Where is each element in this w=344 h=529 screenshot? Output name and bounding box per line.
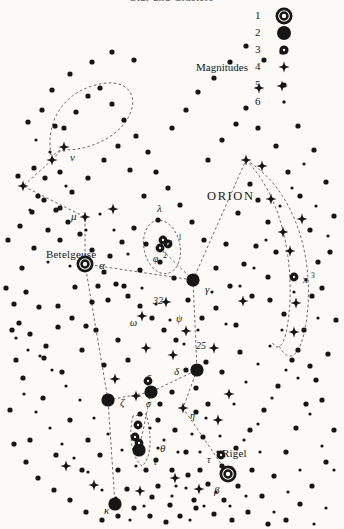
star-mag4	[134, 485, 145, 496]
star-mag3	[290, 273, 299, 282]
star-mag5	[9, 327, 14, 332]
greek-label-9: ζ	[120, 397, 124, 408]
star-mag5	[313, 377, 318, 382]
star-mag5	[297, 193, 302, 198]
star-mag2	[186, 273, 199, 286]
star-mag5	[307, 363, 312, 368]
star-mag5	[229, 517, 234, 522]
star-mag5	[275, 383, 280, 388]
star-mag5	[235, 483, 240, 488]
star-mag5	[85, 175, 90, 180]
star-mag6	[98, 212, 101, 215]
star-mag4	[88, 479, 99, 490]
star-mag5	[323, 459, 328, 464]
star-mag5	[61, 125, 66, 130]
star-mag5	[93, 327, 98, 332]
star-mag6	[244, 380, 247, 383]
star-mag5	[265, 219, 270, 224]
star-mag5	[19, 265, 24, 270]
star-mag5	[115, 467, 120, 472]
star-mag5	[311, 147, 316, 152]
star-mag6	[84, 228, 87, 231]
star-mag6	[190, 432, 193, 435]
star-mag4	[208, 342, 219, 353]
constellation-name-label: ORION	[207, 190, 255, 203]
star-mag6	[242, 438, 245, 441]
star-mag5	[53, 207, 58, 212]
superscript-label-0: 1	[178, 234, 182, 242]
greek-label-0: ν	[70, 152, 75, 163]
star-mag5	[39, 107, 44, 112]
star-mag5	[97, 85, 102, 90]
star-mag6	[50, 368, 53, 371]
star-mag5	[101, 362, 106, 367]
star-mag6	[264, 238, 267, 241]
greek-label-5: ω	[130, 318, 137, 328]
star-mag5	[273, 143, 278, 148]
star-mag6	[224, 322, 227, 325]
star-mag5	[249, 293, 254, 298]
star-mag6	[308, 412, 311, 415]
star-mag5	[333, 317, 338, 322]
star-mag5	[245, 509, 250, 514]
star-mag5	[67, 497, 72, 502]
star-mag4	[290, 297, 301, 308]
star-mag6	[64, 184, 67, 187]
star-mag5	[237, 349, 242, 354]
star-mag5	[197, 467, 202, 472]
star-mag4	[177, 402, 188, 413]
star-mag5	[125, 293, 130, 298]
star-mag5	[131, 505, 136, 510]
star-mag5	[281, 311, 286, 316]
star-mag5	[331, 427, 336, 432]
star-mag5	[201, 237, 206, 242]
star-mag5	[153, 169, 158, 174]
star-mag5	[42, 175, 47, 180]
star-mag5	[57, 237, 62, 242]
star-mag5	[219, 369, 224, 374]
star-mag5	[233, 121, 238, 126]
star-mag5	[293, 425, 298, 430]
star-mag6	[312, 522, 315, 525]
star-mag5	[11, 441, 16, 446]
star-mag5	[331, 213, 336, 218]
star-mag5	[53, 452, 58, 457]
star-mag6	[134, 464, 137, 467]
star-mag6	[22, 392, 25, 395]
star-mag6	[202, 504, 205, 507]
star-mag5	[167, 502, 172, 507]
star-mag5	[20, 375, 25, 380]
star-mag5	[211, 75, 216, 80]
star-mag5	[199, 315, 204, 320]
star-mag5	[41, 197, 46, 202]
star-mag5	[261, 407, 266, 412]
star-mag4	[278, 61, 289, 72]
star-mag6	[48, 150, 51, 153]
star-mag5	[271, 473, 276, 478]
superscript-label-2: 3	[311, 272, 315, 280]
star-mag6	[120, 448, 123, 451]
star-mag4	[60, 460, 71, 471]
star-mag5	[319, 285, 324, 290]
star-mag6	[128, 518, 131, 521]
star-mag5	[23, 459, 28, 464]
star-mag6	[38, 354, 41, 357]
star-mag6	[332, 468, 335, 471]
star-mag5	[85, 437, 90, 442]
star-mag5	[143, 241, 148, 246]
star-mag5	[193, 505, 198, 510]
star-mag5	[219, 137, 224, 142]
star-mag6	[78, 398, 81, 401]
star-mag5	[35, 193, 40, 198]
star-mag6	[34, 410, 37, 413]
star-mag4	[109, 373, 120, 384]
greek-label-15: β	[214, 485, 219, 496]
star-mag6	[292, 290, 295, 293]
star-mag5	[35, 475, 40, 480]
legend-magnitude-5: 5	[255, 79, 261, 90]
star-mag5	[57, 169, 62, 174]
star-mag3	[134, 421, 143, 430]
star-mag6	[28, 208, 31, 211]
star-mag6	[68, 264, 71, 267]
star-mag5	[172, 427, 177, 432]
